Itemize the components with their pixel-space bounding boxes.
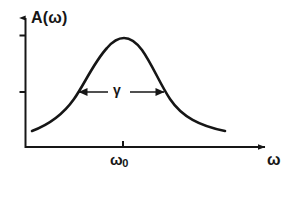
resonance-curve bbox=[32, 38, 225, 131]
x-axis-label: ω bbox=[267, 152, 281, 168]
plot-canvas bbox=[0, 0, 298, 210]
x-axis-tick-label-omega-zero: ω0 bbox=[110, 152, 129, 167]
omega-symbol: ω bbox=[110, 151, 123, 168]
resonance-curve-figure: A(ω) ω ω0 γ bbox=[0, 0, 298, 210]
omega-subscript: 0 bbox=[122, 157, 128, 169]
y-axis-label: A(ω) bbox=[31, 10, 68, 26]
gamma-width-label: γ bbox=[113, 83, 121, 97]
